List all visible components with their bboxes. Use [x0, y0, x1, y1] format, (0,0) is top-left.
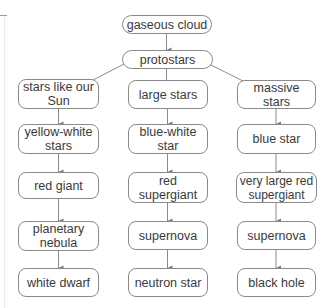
node-planetary-nebula: planetary nebula: [18, 221, 99, 251]
branch-to-sun-like: [93, 64, 124, 80]
node-very-large-red-supergiant: very large red supergiant: [236, 172, 317, 203]
node-protostars: protostars: [122, 50, 213, 69]
node-massive-stars: massive stars: [237, 80, 316, 109]
branch-to-massive: [209, 64, 243, 81]
node-blue-white-star: blue-white star: [128, 124, 208, 154]
node-white-dwarf: white dwarf: [18, 268, 99, 297]
node-gaseous-cloud: gaseous cloud: [122, 15, 212, 34]
node-supernova-large: supernova: [128, 221, 208, 250]
node-black-hole: black hole: [237, 268, 316, 297]
node-stars-like-our-sun: stars like our Sun: [18, 79, 99, 109]
node-yellow-white-stars: yellow-white stars: [18, 124, 99, 154]
node-large-stars: large stars: [128, 80, 208, 109]
node-supernova-massive: supernova: [237, 221, 316, 250]
node-neutron-star: neutron star: [128, 268, 208, 297]
node-red-giant: red giant: [18, 172, 99, 199]
node-blue-star: blue star: [237, 124, 316, 154]
node-red-supergiant: red supergiant: [128, 172, 208, 203]
connector-lines: [0, 0, 331, 308]
